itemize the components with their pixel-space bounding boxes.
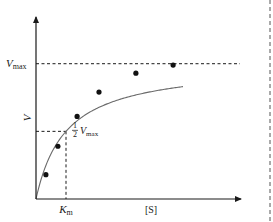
data-point <box>133 71 138 76</box>
km-label-sub: m <box>67 208 74 217</box>
data-point <box>96 90 101 95</box>
half-vmax-label-sub: max <box>86 130 99 138</box>
half-vmax-label: 1 2 Vmax <box>72 121 99 139</box>
data-point <box>171 62 176 67</box>
svg-text:Vmax: Vmax <box>80 125 99 138</box>
vmax-label-sub: max <box>13 62 27 71</box>
data-point <box>55 144 60 149</box>
michaelis-menten-chart: Vmax 1 2 Vmax Km [S] V <box>0 0 273 222</box>
data-point <box>75 114 80 119</box>
x-axis-label: [S] <box>145 204 157 215</box>
vmax-label: Vmax <box>6 57 27 71</box>
y-axis-label: V <box>21 113 33 121</box>
data-points <box>43 62 175 177</box>
michaelis-menten-curve <box>36 87 183 199</box>
km-tick-label: Km <box>58 203 73 217</box>
half-vmax-label-numerator: 1 <box>73 121 77 130</box>
half-vmax-label-denominator: 2 <box>73 130 77 139</box>
data-point <box>43 172 48 177</box>
